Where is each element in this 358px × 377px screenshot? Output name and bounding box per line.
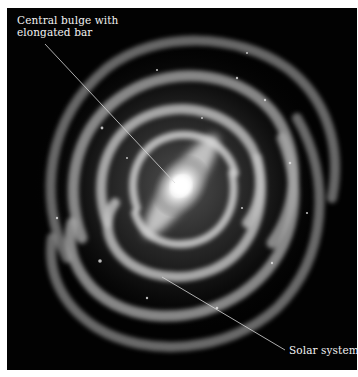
leader-lines: [7, 8, 357, 370]
central-bulge-label: Central bulge with elongated bar: [17, 14, 118, 38]
bulge-leader-line: [45, 44, 175, 183]
central-bulge-label-line2: elongated bar: [17, 26, 118, 38]
solar-system-label-text: Solar system: [289, 344, 357, 356]
solar-system-label: Solar system: [289, 344, 357, 356]
galaxy-figure: Central bulge with elongated bar Solar s…: [7, 8, 357, 370]
solar-leader-line: [162, 277, 285, 350]
central-bulge-label-line1: Central bulge with: [17, 14, 118, 26]
